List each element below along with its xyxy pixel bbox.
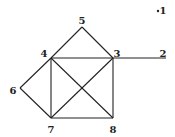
node-7: 7 [48,124,55,135]
edge-6-7 [20,88,51,118]
node-5: 5 [79,15,86,26]
edge-5-4 [51,27,82,58]
graph-edges [20,27,166,118]
node-label: 4 [41,48,48,59]
graph-diagram: 12345678 [0,0,175,137]
node-6: 6 [10,85,17,96]
node-1: 1 [157,5,167,16]
node-4: 4 [41,48,48,59]
node-label: 6 [10,85,17,96]
node-label: 5 [79,15,86,26]
node-label: 2 [160,48,167,59]
node-3: 3 [114,48,121,59]
node-label: 1 [160,5,167,16]
node-8: 8 [110,124,117,135]
node-label: 8 [110,124,117,135]
node-label: 3 [114,48,121,59]
edge-5-3 [82,27,113,58]
edge-4-6 [20,58,51,88]
node-2: 2 [160,48,167,59]
graph-nodes: 12345678 [10,5,167,135]
node-label: 7 [48,124,55,135]
